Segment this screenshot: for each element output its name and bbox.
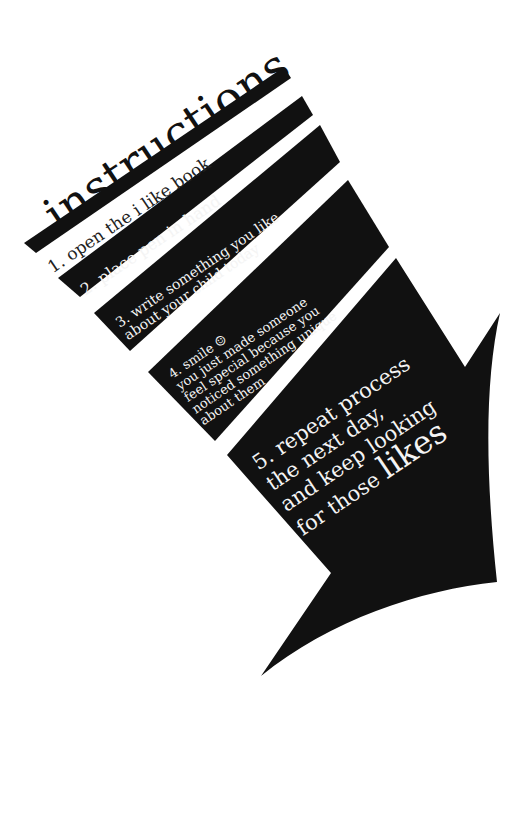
graphic-shapes	[0, 0, 532, 840]
instructions-poster: instructions 1. open the i like book 2. …	[0, 0, 532, 840]
